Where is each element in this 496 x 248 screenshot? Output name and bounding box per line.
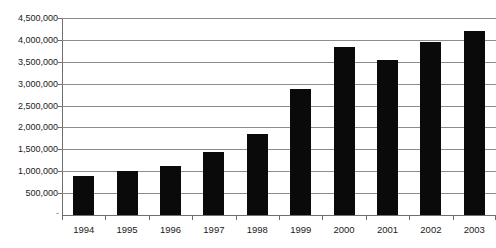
x-axis-tick: [149, 216, 150, 220]
x-axis-tick-label: 1996: [149, 224, 192, 236]
bar: [160, 166, 181, 215]
bar: [464, 31, 485, 215]
x-axis-tick: [192, 216, 193, 220]
y-axis-tick: [58, 106, 62, 107]
bar: [73, 176, 94, 215]
y-axis-tick: [58, 193, 62, 194]
x-axis-tick: [453, 216, 454, 220]
y-axis-tick-label: 2,500,000: [18, 102, 58, 111]
y-axis-tick-label: 500,000: [25, 189, 58, 198]
y-axis-tick-label: 4,500,000: [18, 14, 58, 23]
y-axis-zero-label: -: [50, 209, 59, 218]
plot-area: [62, 18, 496, 215]
x-axis-tick: [62, 216, 63, 220]
y-axis-tick-label: 2,000,000: [18, 123, 58, 132]
y-axis-tick: [58, 62, 62, 63]
bar: [203, 152, 224, 215]
y-axis-tick: [58, 127, 62, 128]
x-axis-tick: [279, 216, 280, 220]
bar: [334, 47, 355, 215]
x-axis-tick-label: 1995: [105, 224, 148, 236]
x-axis-tick-label: 2000: [322, 224, 365, 236]
x-axis-ticks: [62, 216, 496, 221]
x-axis-tick-label: 2002: [409, 224, 452, 236]
x-axis-tick-label: 2003: [453, 224, 496, 236]
bar: [290, 89, 311, 215]
x-axis-tick-label: 1997: [192, 224, 235, 236]
y-axis-tick-label: 4,000,000: [18, 36, 58, 45]
gridline: [62, 40, 496, 41]
bar: [117, 171, 138, 215]
x-axis-tick: [409, 216, 410, 220]
bar: [420, 42, 441, 215]
y-axis-tick-label: 1,500,000: [18, 145, 58, 154]
x-axis-tick-label: 1999: [279, 224, 322, 236]
x-axis-tick: [105, 216, 106, 220]
bar: [377, 60, 398, 215]
x-axis-tick: [322, 216, 323, 220]
y-axis-tick: [58, 84, 62, 85]
y-axis-tick: [58, 149, 62, 150]
x-axis-tick-label: 1998: [236, 224, 279, 236]
x-axis-tick-label: 1994: [62, 224, 105, 236]
y-axis-tick: [58, 18, 62, 19]
bar-chart: 500,0001,000,0001,500,0002,000,0002,500,…: [0, 0, 496, 248]
x-axis-labels: 1994199519961997199819992000200120022003: [62, 224, 496, 242]
y-axis-tick: [58, 171, 62, 172]
x-axis-tick: [236, 216, 237, 220]
x-axis-tick: [366, 216, 367, 220]
gridline: [62, 18, 496, 19]
y-axis-tick-label: 3,500,000: [18, 58, 58, 67]
y-axis-tick-label: 1,000,000: [18, 167, 58, 176]
bar: [247, 134, 268, 215]
x-axis-tick-label: 2001: [366, 224, 409, 236]
y-axis-tick-label: 3,000,000: [18, 80, 58, 89]
y-axis-tick: [58, 40, 62, 41]
